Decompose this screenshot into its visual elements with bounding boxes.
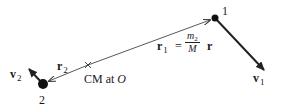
r2-symbol: r — [57, 59, 62, 73]
v1-velocity-arrow — [215, 18, 264, 70]
v1-label: v1 — [253, 72, 265, 84]
numerator-sub: 2 — [194, 35, 198, 43]
diagram-canvas — [0, 0, 282, 108]
v2-symbol: v — [10, 67, 16, 81]
fraction-numerator: m2 — [185, 31, 200, 43]
r2-vector-arrow — [49, 65, 88, 81]
mass-ratio-fraction: m2 M — [185, 31, 200, 54]
fraction-denominator: M — [188, 43, 196, 54]
r2-subscript: 2 — [63, 65, 68, 75]
r1-lhs: r1 — [157, 40, 168, 52]
r1-subscript: 1 — [163, 45, 168, 55]
cm-label: CM at O — [84, 73, 126, 85]
cm-origin-symbol: O — [117, 72, 126, 86]
v2-label: v2 — [10, 68, 22, 80]
mass-1-dot — [212, 15, 219, 22]
r1-equals: = — [175, 40, 182, 52]
mass-1-label: 1 — [222, 5, 228, 17]
v2-subscript: 2 — [17, 73, 22, 83]
mass-2-label: 2 — [39, 94, 45, 106]
center-of-mass-marker — [85, 62, 91, 68]
r2-label: r2 — [57, 60, 68, 72]
r-vector-symbol: r — [207, 40, 212, 52]
v1-symbol: v — [253, 71, 259, 85]
v1-subscript: 1 — [260, 77, 265, 87]
mass-2-dot — [38, 79, 48, 89]
r1-symbol: r — [157, 39, 162, 53]
cm-label-text: CM at — [84, 72, 117, 86]
